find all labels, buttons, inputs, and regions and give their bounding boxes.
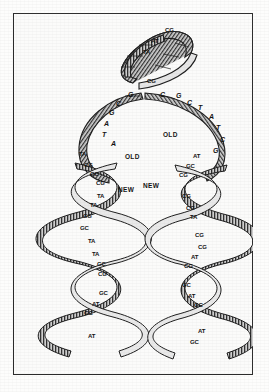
parent-base-pair: CG — [147, 78, 156, 84]
left-helix-base-pair: TA — [79, 151, 86, 157]
left-helix-base-pair: GC — [80, 225, 89, 231]
left-helix-base-pair: CG — [83, 213, 92, 219]
left-helix-base-pair: TA — [97, 193, 104, 199]
left-helix-base-pair: AT — [92, 301, 99, 307]
left-helix-base-pair: AT — [88, 333, 95, 339]
unpaired-base-left: G — [128, 91, 133, 98]
unpaired-base-right: A — [209, 113, 214, 120]
right-helix-base-pair: CG — [182, 193, 191, 199]
parent-helix-ribbons — [121, 32, 197, 89]
strand-label-new-left: NEW — [118, 187, 134, 194]
right-helix-base-pair: GC — [190, 339, 199, 345]
left-helix-base-pair: GC — [99, 290, 108, 296]
parent-base-pair: CG — [165, 27, 174, 33]
left-helix-base-pair: GC — [90, 171, 99, 177]
right-helix-base-pair: CG — [184, 263, 193, 269]
unpaired-base-left: G — [109, 109, 114, 116]
right-helix-base-pair: CG — [179, 172, 188, 178]
strand-label-new-right: NEW — [143, 183, 159, 190]
unpaired-base-right: T — [216, 124, 220, 131]
right-helix-base-pair: AT — [193, 153, 200, 159]
unpaired-base-right: C — [160, 91, 165, 98]
unpaired-base-right: C — [187, 99, 192, 106]
unpaired-base-left: A — [104, 120, 109, 127]
left-helix-base-pair: TA — [92, 251, 99, 257]
parent-base-pair: AT — [151, 38, 158, 44]
dna-illustration — [13, 13, 253, 375]
left-helix-base-pair: CG — [84, 162, 93, 168]
left-helix-base-pair: GC — [84, 310, 93, 316]
right-helix-base-pair: TA — [190, 214, 197, 220]
right-helix-base-pair: AT — [198, 328, 205, 334]
strand-label-old-left: OLD — [125, 154, 140, 161]
strand-label-old-right: OLD — [163, 132, 178, 139]
left-helix-base-pair: GC — [97, 261, 106, 267]
unpaired-base-right: T — [198, 104, 202, 111]
unpaired-base-right: G — [176, 92, 181, 99]
left-daughter-ribbons — [36, 163, 152, 357]
right-helix-base-pair: GC — [194, 302, 203, 308]
left-helix-base-pair: CG — [98, 271, 107, 277]
right-helix-base-pair: CG — [186, 205, 195, 211]
left-helix-base-pair: TA — [90, 202, 97, 208]
right-helix-base-pair: GC — [182, 282, 191, 288]
parent-base-pair: TA — [143, 49, 150, 55]
unpaired-base-right: G — [213, 147, 218, 154]
dna-replication-figure: CG AT TA CG G C G A T A C G C T A T C G … — [0, 0, 269, 392]
left-helix-base-pair: TA — [88, 238, 95, 244]
unpaired-base-right: C — [220, 136, 225, 143]
right-helix-base-pair: AT — [191, 254, 198, 260]
right-helix-base-pair: CG — [195, 232, 204, 238]
right-helix-base-pair: GC — [186, 163, 195, 169]
right-helix-base-pair: CG — [198, 244, 207, 250]
unpaired-base-left: T — [102, 131, 106, 138]
right-helix-base-pair: AT — [188, 293, 195, 299]
unpaired-base-left: A — [111, 140, 116, 147]
left-helix-base-pair: CG — [96, 180, 105, 186]
unpaired-base-left: C — [116, 100, 121, 107]
